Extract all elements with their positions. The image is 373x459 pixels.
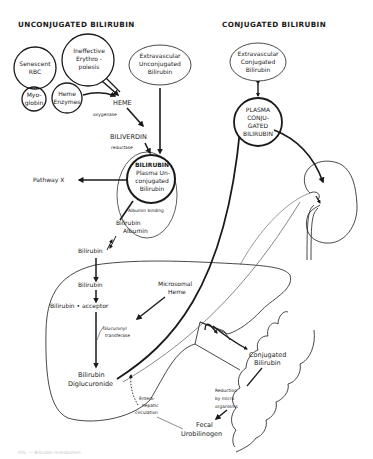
node-plasma-unconjugated-bilirubin: BILIRUBIN Plasma Un- conjugated Bilirubi… bbox=[127, 155, 175, 203]
svg-text:globin: globin bbox=[25, 99, 44, 107]
arrow-biliverdin-to-bilirubin bbox=[145, 143, 150, 153]
label-enterohepatic-3: circulation bbox=[135, 410, 158, 415]
svg-text:Bilirubin: Bilirubin bbox=[148, 68, 173, 75]
svg-text:BILIRUBIN: BILIRUBIN bbox=[243, 130, 273, 137]
label-urobilinogen: Urobilinogen bbox=[181, 430, 222, 438]
svg-text:Myo-: Myo- bbox=[27, 91, 42, 99]
label-reduction-3: organisms bbox=[215, 404, 238, 409]
arrow-enterohepatic bbox=[131, 375, 138, 405]
intestine-right-edge bbox=[236, 330, 314, 452]
svg-text:Erythro -: Erythro - bbox=[76, 55, 102, 63]
label-bilirubin-acceptor: Bilirubin • acceptor bbox=[50, 302, 109, 310]
svg-text:Conjugated: Conjugated bbox=[241, 58, 276, 66]
svg-text:Ineffective: Ineffective bbox=[73, 47, 105, 54]
svg-text:conjugated: conjugated bbox=[135, 177, 169, 185]
label-microsomal-heme-2: Heme bbox=[168, 288, 186, 295]
kidney-outline bbox=[305, 161, 357, 243]
arrow-microsomal-heme bbox=[137, 297, 165, 319]
node-extravascular-unconjugated: Extravascular Unconjugated Bilirubin bbox=[129, 45, 191, 85]
svg-text:Bilirubin: Bilirubin bbox=[246, 66, 271, 73]
svg-text:Extravascular: Extravascular bbox=[237, 50, 279, 57]
label-diglucuronide-1: Bilirubin bbox=[78, 371, 105, 379]
arrow-heme-enzymes-to-heme bbox=[83, 93, 115, 96]
header-conjugated: CONJUGATED BILIRUBIN bbox=[222, 20, 326, 29]
arrow-to-fecal-urobilinogen bbox=[216, 410, 227, 419]
svg-text:RBC: RBC bbox=[29, 68, 41, 75]
svg-text:BILIRUBIN: BILIRUBIN bbox=[135, 161, 169, 168]
label-reduction-2: by micro bbox=[215, 396, 234, 401]
bilirubin-metabolism-diagram: UNCONJUGATED BILIRUBIN CONJUGATED BILIRU… bbox=[0, 0, 373, 459]
svg-text:PLASMA: PLASMA bbox=[246, 106, 271, 113]
svg-text:Senescent: Senescent bbox=[19, 60, 51, 67]
node-extravascular-conjugated: Extravascular Conjugated Bilirubin bbox=[230, 43, 286, 81]
label-bilirubin-free: Bilirubin bbox=[78, 247, 103, 254]
node-heme-enzymes: Heme Enzymes bbox=[52, 83, 82, 113]
label-microsomal-heme-1: Microsomal bbox=[158, 280, 192, 287]
label-reduction-1: Reduction bbox=[215, 388, 237, 393]
label-oxygenase: oxygenase bbox=[93, 112, 117, 117]
svg-text:poiesis: poiesis bbox=[79, 63, 100, 71]
label-glucuronyl-1: Glucuronyl bbox=[103, 326, 127, 331]
svg-text:Unconjugated: Unconjugated bbox=[139, 60, 181, 68]
label-glucuronyl-2: transferase bbox=[105, 333, 130, 338]
label-enterohepatic-2: hepatic bbox=[142, 403, 159, 408]
label-biliverdin: BILIVERDIN bbox=[110, 133, 147, 141]
label-bilirubin-albumin-2: Albumin bbox=[123, 227, 148, 234]
label-fecal: Fecal bbox=[196, 421, 213, 429]
label-conjugated-bilirubin-2: Bilirubin bbox=[254, 359, 281, 367]
label-enterohepatic-1: Entero- bbox=[139, 396, 155, 401]
svg-text:Bilirubin: Bilirubin bbox=[140, 185, 165, 192]
label-heme: HEME bbox=[113, 99, 132, 107]
svg-text:CONJU-: CONJU- bbox=[247, 114, 269, 122]
svg-text:Plasma Un-: Plasma Un- bbox=[136, 169, 170, 176]
node-myoglobin: Myo- globin bbox=[22, 87, 46, 111]
label-diglucuronide-2: Diglucuronide bbox=[68, 380, 113, 388]
label-pathway-x: Pathway X bbox=[33, 176, 64, 184]
node-plasma-conjugated-bilirubin: PLASMA CONJU- GATED BILIRUBIN bbox=[234, 98, 282, 146]
svg-text:GATED: GATED bbox=[248, 122, 269, 129]
arrow-plasma-to-kidney bbox=[274, 130, 323, 182]
header-unconjugated: UNCONJUGATED BILIRUBIN bbox=[18, 20, 135, 29]
arrow-heme-to-biliverdin bbox=[127, 108, 143, 126]
svg-text:Heme: Heme bbox=[58, 90, 76, 97]
arrow-bile-duct-2 bbox=[213, 326, 247, 349]
label-reductase: reductase bbox=[111, 145, 133, 150]
label-conjugated-bilirubin-1: Conjugated bbox=[249, 351, 286, 359]
svg-text:Extravascular: Extravascular bbox=[139, 52, 181, 59]
label-bilirubin-albumin-1: Bilirubin bbox=[116, 219, 141, 226]
svg-text:Enzymes: Enzymes bbox=[54, 98, 81, 106]
label-albumin-binding: Albumin binding bbox=[128, 208, 164, 213]
figure-caption: FIG. — Bilirubin metabolism bbox=[18, 450, 81, 455]
node-senescent-rbc: Senescent RBC bbox=[14, 47, 56, 89]
label-liver-bilirubin: Bilirubin bbox=[78, 281, 103, 288]
